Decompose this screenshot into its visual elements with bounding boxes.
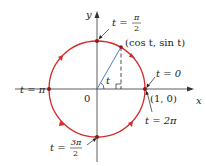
right-angle-mark xyxy=(116,84,121,89)
x-axis-arrow-icon xyxy=(187,87,194,92)
pointer-arrow-icon xyxy=(146,91,149,96)
unit-circle-diagram: y x 0 t (cos t, sin t) t = π 2 t = 0 (1,… xyxy=(0,0,206,166)
point-cos-sin xyxy=(119,45,123,49)
t-3pi-over-2-prefix: t = xyxy=(50,142,66,153)
t-3pi-over-2-num: 3π xyxy=(71,138,82,147)
t-zero-label: t = 0 xyxy=(156,68,182,79)
y-axis-arrow-icon xyxy=(95,11,100,18)
t-2pi-label: t = 2π xyxy=(145,115,177,126)
point-right xyxy=(143,87,147,91)
origin-label: 0 xyxy=(84,93,90,104)
one-zero-label: (1, 0) xyxy=(150,93,177,104)
y-axis-label: y xyxy=(85,9,92,20)
point-label: (cos t, sin t) xyxy=(125,37,185,48)
angle-label: t xyxy=(106,75,111,86)
t-pi-over-2-num: π xyxy=(133,13,140,22)
point-left xyxy=(47,87,51,91)
angle-arc xyxy=(101,83,104,89)
t-pi-over-2-prefix: t = xyxy=(112,17,128,28)
direction-arrow-icon xyxy=(128,121,133,127)
t-pi-over-2-den: 2 xyxy=(134,24,139,33)
t-3pi-over-2-den: 2 xyxy=(73,149,78,158)
t-pi-label: t = π xyxy=(20,84,46,95)
x-axis-label: x xyxy=(196,95,202,106)
point-top xyxy=(95,39,99,43)
